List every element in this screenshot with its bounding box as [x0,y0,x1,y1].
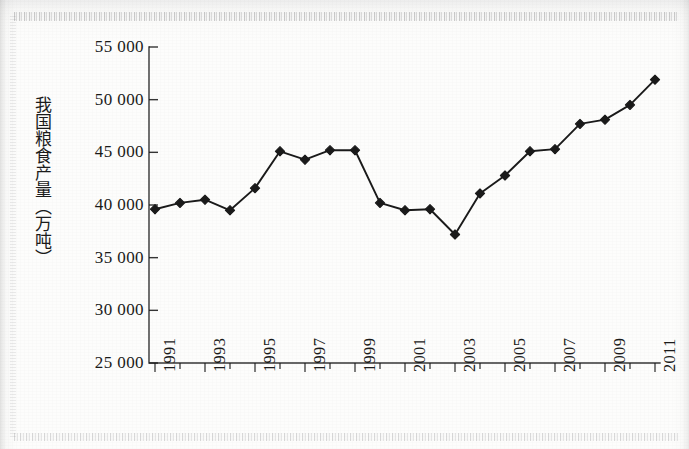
x-axis-tick-label: 2007 [562,338,579,372]
scanned-page: 55 00050 00045 00040 00035 00030 00025 0… [0,0,689,449]
x-axis-tick-label: 1993 [212,338,229,372]
x-axis-tick-label: 1995 [262,338,279,372]
x-axis-tick-label: 2005 [512,338,529,372]
x-axis-tick-label: 1999 [362,338,379,372]
x-axis-tick-labels: 1991199319951997199920012003200520072009… [0,0,689,449]
x-axis-tick-label: 1997 [312,338,329,372]
x-axis-tick-label: 2003 [462,338,479,372]
line-chart: 55 00050 00045 00040 00035 00030 00025 0… [0,0,689,449]
x-axis-tick-label: 1991 [162,338,179,372]
x-axis-tick-label: 2009 [612,338,629,372]
x-axis-tick-label: 2011 [662,338,679,372]
y-axis-title: 我国粮食产量（万吨） [20,96,50,266]
x-axis-tick-label: 2001 [412,338,429,372]
